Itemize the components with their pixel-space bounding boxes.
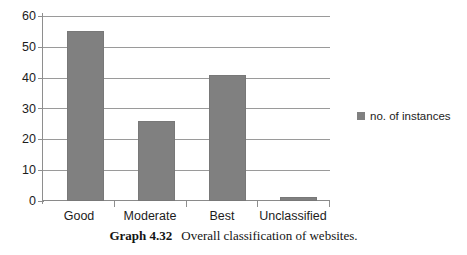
bar-series-no-of-instances [43, 16, 330, 201]
y-axis-tick-label: 40 [2, 72, 36, 84]
x-axis-label-best: Best [209, 209, 234, 223]
bar-best[interactable] [209, 75, 246, 201]
legend-swatch-icon [357, 112, 365, 120]
chart-legend: no. of instances [357, 110, 451, 122]
y-axis-tick-label: 10 [2, 164, 36, 176]
bar-chart: 60 50 40 30 20 10 0 [0, 0, 340, 225]
x-axis-tick [257, 201, 258, 207]
bar-good[interactable] [67, 31, 104, 201]
y-axis-tick-label: 30 [2, 103, 36, 115]
x-axis-label-moderate: Moderate [124, 209, 177, 223]
x-axis-tick [114, 201, 115, 207]
y-axis-tick [38, 201, 44, 202]
bar-moderate[interactable] [138, 121, 175, 201]
y-axis-tick-label: 20 [2, 133, 36, 145]
x-axis-label-unclassified: Unclassified [259, 209, 326, 223]
y-axis-tick-label: 0 [2, 195, 36, 207]
caption-text: Overall classification of websites. [181, 228, 357, 243]
y-axis-tick-label: 50 [2, 41, 36, 53]
y-axis-labels: 60 50 40 30 20 10 0 [0, 0, 36, 225]
x-axis-tick [186, 201, 187, 207]
y-axis-tick-label: 60 [2, 10, 36, 22]
x-axis-label-good: Good [64, 209, 95, 223]
x-axis-tick [329, 201, 330, 207]
figure-caption: Graph 4.32Overall classification of webs… [0, 228, 467, 244]
caption-number: Graph 4.32 [109, 228, 172, 243]
figure-graph-4-32: 60 50 40 30 20 10 0 [0, 0, 467, 255]
bar-unclassified[interactable] [280, 197, 317, 201]
legend-entry-label: no. of instances [370, 110, 451, 122]
